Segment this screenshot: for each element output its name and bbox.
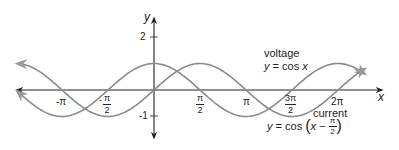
y-tick-2: 2	[140, 32, 146, 42]
voltage-equation: y = cos x	[264, 60, 308, 73]
x-tick-two-pi: 2π	[331, 97, 343, 107]
x-tick-neg-half-pi: π 2	[103, 94, 111, 115]
x-axis-label: x	[378, 91, 384, 103]
y-tick-neg1: -1	[139, 111, 148, 121]
current-equation: y = cos ( x − π 2 )	[267, 117, 342, 136]
current-eq-fraction: π 2	[329, 117, 337, 136]
x-tick-three-half-pi: 3π 2	[285, 94, 296, 115]
voltage-title: voltage	[264, 47, 308, 60]
x-tick-neg-half-pi-sign: -	[99, 96, 102, 105]
y-axis-label: y	[144, 11, 150, 23]
x-tick-neg-pi: -π	[56, 97, 66, 107]
x-tick-pi: π	[243, 97, 250, 107]
voltage-annotation: voltage y = cos x	[264, 47, 308, 72]
x-tick-half-pi: π 2	[196, 94, 204, 115]
